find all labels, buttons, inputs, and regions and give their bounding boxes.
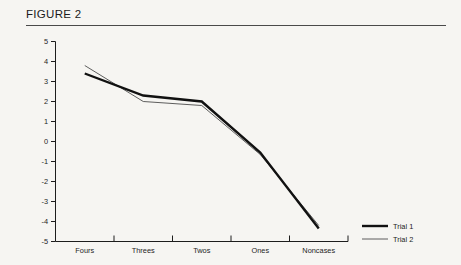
x-axis-label: Threes	[132, 246, 155, 255]
y-axis-label: -4	[41, 217, 48, 226]
line-chart: 543210-1-2-3-4-5FoursThreesTwosOnesNonca…	[0, 0, 461, 265]
y-axis-label: -1	[41, 157, 48, 166]
series-line-trial-1	[85, 74, 319, 229]
y-axis-label: 1	[44, 117, 48, 126]
x-axis-label: Fours	[75, 246, 94, 255]
legend-label: Trial 1	[393, 222, 413, 231]
y-axis-label: -3	[41, 197, 48, 206]
y-axis-label: 0	[44, 137, 48, 146]
x-axis-label: Ones	[251, 246, 269, 255]
y-axis-label: -2	[41, 177, 48, 186]
y-axis-label: 3	[44, 77, 48, 86]
y-axis-label: 2	[44, 97, 48, 106]
x-axis-label: Twos	[193, 246, 211, 255]
series-line-trial-2	[85, 66, 319, 226]
x-axis-label: Noncases	[302, 246, 335, 255]
figure-container: FIGURE 2 543210-1-2-3-4-5FoursThreesTwos…	[0, 0, 461, 265]
y-axis-label: 4	[44, 57, 48, 66]
legend-label: Trial 2	[393, 235, 413, 244]
y-axis-label: 5	[44, 37, 48, 46]
y-axis-label: -5	[41, 237, 48, 246]
